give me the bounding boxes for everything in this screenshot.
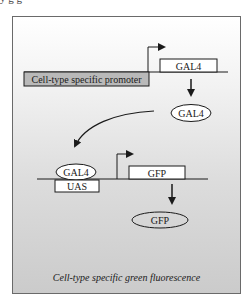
gal4-protein-label: GAL4 [178,108,204,119]
bound-gal4-label: GAL4 [63,167,89,178]
responder-construct: GAL4 UAS GFP [37,154,208,192]
gfp-gene-label: GFP [148,168,167,179]
binding-arrow-icon [75,111,154,146]
gal4-protein: GAL4 [171,105,211,122]
gal4-uas-diagram: Cell-type specific promoter GAL4 GAL4 GA… [0,0,250,307]
promoter-label: Cell-type specific promoter [32,74,143,85]
gal4-gene-label: GAL4 [176,61,202,72]
gfp-protein-label: GFP [151,215,170,226]
driver-construct: Cell-type specific promoter GAL4 [24,47,228,86]
gfp-protein: GFP [132,212,188,228]
uas-label: UAS [67,181,87,192]
diagram-caption: Cell-type specific green fluorescence [12,272,241,283]
